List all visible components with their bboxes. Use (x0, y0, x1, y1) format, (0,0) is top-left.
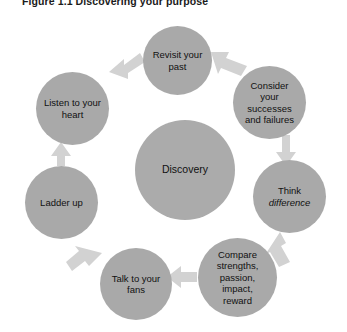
line-4: and failures (245, 114, 294, 125)
line-1: Compare (218, 249, 257, 260)
line-4: impact, (222, 283, 253, 294)
node-revisit-your-past-label: Revisit your past (148, 49, 208, 72)
line-1: Listen to your (44, 97, 101, 108)
figure-container: Figure 1.1 Discovering your purpose (0, 0, 347, 332)
node-think-difference-label: Think difference (264, 185, 316, 208)
line-1: Think (278, 185, 301, 196)
node-listen-to-your-heart[interactable]: Listen to your heart (36, 72, 109, 145)
arrow-revisit-to-consider (211, 52, 247, 76)
line-2: past (169, 61, 187, 72)
arrow-listen-to-revisit (109, 53, 145, 79)
arrow-ladder-to-listen (51, 142, 71, 166)
line-3: passion, (220, 272, 255, 283)
node-talk-to-your-fans-label: Talk to your fans (107, 273, 166, 296)
line-3: successes (247, 103, 291, 114)
node-ladder-up[interactable]: Ladder up (25, 166, 98, 239)
node-ladder-up-label: Ladder up (35, 197, 88, 209)
node-discovery-label: Discovery (157, 164, 213, 176)
node-listen-to-your-heart-label: Listen to your heart (39, 97, 106, 120)
node-revisit-your-past[interactable]: Revisit your past (143, 26, 212, 95)
arrow-talk-to-ladder (66, 246, 102, 271)
line-5: reward (223, 295, 252, 306)
line-2: difference (269, 197, 311, 208)
line-1: Talk to your (112, 273, 161, 284)
line-2: your (260, 91, 278, 102)
node-discovery[interactable]: Discovery (135, 120, 235, 220)
line-2: strengths, (217, 260, 259, 271)
line-2: heart (62, 109, 84, 120)
node-talk-to-your-fans[interactable]: Talk to your fans (100, 248, 172, 320)
line-1: Consider (250, 80, 288, 91)
node-think-difference[interactable]: Think difference (253, 160, 326, 233)
node-consider-successes[interactable]: Consider your successes and failures (233, 66, 306, 139)
line-1: Revisit your (153, 49, 203, 60)
line-2: fans (127, 284, 145, 295)
cycle-diagram: Discovery Revisit your past Consider you… (0, 0, 347, 332)
node-compare-strengths[interactable]: Compare strengths, passion, impact, rewa… (198, 238, 277, 317)
line-1: Ladder up (40, 197, 83, 208)
node-consider-successes-label: Consider your successes and failures (240, 80, 299, 126)
node-compare-strengths-label: Compare strengths, passion, impact, rewa… (212, 249, 264, 307)
